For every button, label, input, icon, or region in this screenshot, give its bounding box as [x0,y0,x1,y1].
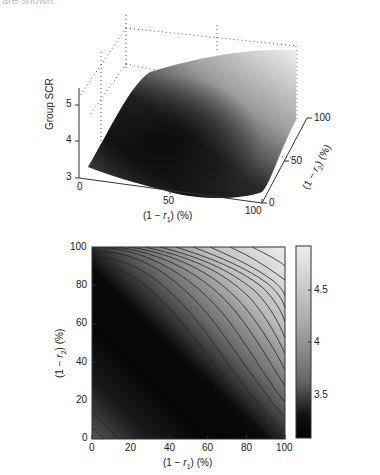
cx-tick-60: 60 [202,442,213,453]
colorbar-tick-4.5: 4.5 [314,284,328,295]
contour-x-label: (1 − r1) (%) [163,457,212,470]
cy-tick-100: 100 [70,241,87,252]
cx-tick-40: 40 [164,442,175,453]
colorbar-tick-3.5: 3.5 [314,389,328,400]
cx-tick-20: 20 [125,442,136,453]
cx-tick-0: 0 [89,442,95,453]
cy-tick-20: 20 [76,394,87,405]
contour-y-label: (1 − r2) (%) [54,329,67,378]
cy-tick-60: 60 [76,317,87,328]
cy-tick-40: 40 [76,356,87,367]
cx-tick-100: 100 [276,442,293,453]
contour-plot [0,0,380,475]
cy-tick-0: 0 [82,432,88,443]
cx-tick-80: 80 [241,442,252,453]
colorbar-tick-4: 4 [314,336,320,347]
cy-tick-80: 80 [76,279,87,290]
